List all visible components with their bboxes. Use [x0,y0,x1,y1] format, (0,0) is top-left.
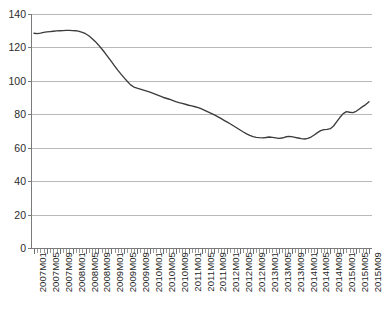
x-tick-label: 2009M01 [115,252,125,292]
y-tick-label: 100 [0,76,26,87]
x-tick-label: 2011M05 [206,252,216,292]
data-series-line [31,14,372,248]
x-axis-labels: 2007M012007M052007M092008M012008M052008M… [0,252,383,324]
y-tick-label: 60 [0,143,26,154]
x-tick-label: 2015M09 [373,252,383,292]
x-tick-label: 2012M09 [257,252,267,292]
x-tick-label: 2008M05 [90,252,100,292]
y-axis [31,14,32,249]
x-tick-label: 2013M05 [283,252,293,292]
x-tick-label: 2013M09 [296,252,306,292]
x-tick-label: 2014M01 [309,252,319,292]
x-tick-label: 2010M01 [154,252,164,292]
plot-area [31,14,372,248]
y-tick-label: 120 [0,42,26,53]
x-tick-label: 2010M05 [167,252,177,292]
x-tick-label: 2014M09 [334,252,344,292]
x-tick-label: 2008M01 [77,252,87,292]
y-tick-label: 140 [0,9,26,20]
x-tick-label: 2008M09 [102,252,112,292]
x-tick-label: 2013M01 [270,252,280,292]
x-tick-label: 2014M05 [321,252,331,292]
line-chart: 020406080100120140 2007M012007M052007M09… [0,0,383,324]
y-tick-label: 80 [0,109,26,120]
x-tick-label: 2009M05 [128,252,138,292]
x-tick-label: 2011M01 [193,252,203,292]
x-tick-label: 2012M05 [244,252,254,292]
x-tick-label: 2009M09 [141,252,151,292]
x-tick-label: 2011M09 [218,252,228,292]
y-tick-label: 20 [0,210,26,221]
x-tick-label: 2012M01 [231,252,241,292]
x-tick-label: 2007M09 [64,252,74,292]
x-tick-label: 2015M05 [360,252,370,292]
x-tick-label: 2007M05 [51,252,61,292]
x-tick-label: 2007M01 [38,252,48,292]
x-tick-label: 2015M01 [347,252,357,292]
y-tick-label: 40 [0,176,26,187]
x-tick-label: 2010M09 [180,252,190,292]
